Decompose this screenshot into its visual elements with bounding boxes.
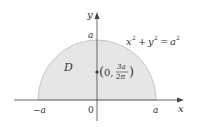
x-axis-arrow-icon xyxy=(177,98,184,103)
centroid-denominator: 2π xyxy=(115,73,125,81)
centroid-numerator: 3a xyxy=(117,63,126,71)
eq-plus: + xyxy=(138,36,146,47)
y-axis-arrow-icon xyxy=(95,12,100,19)
eq-equals: = xyxy=(160,36,168,47)
eq-a-exp: 2 xyxy=(176,34,180,41)
y-tick-a: a xyxy=(88,30,93,40)
eq-y-exp: 2 xyxy=(154,34,158,41)
diagram-canvas: y x a −a 0 a D x 2 + y 2 = a 2 ( 0, 3a 2… xyxy=(0,0,198,127)
x-tick-a: a xyxy=(153,105,158,115)
region-label: D xyxy=(63,61,73,74)
origin-label: 0 xyxy=(88,105,94,115)
x-tick-neg-a: −a xyxy=(33,105,46,115)
centroid-close-paren: ) xyxy=(129,64,134,79)
eq-x-exp: 2 xyxy=(132,34,136,41)
circle-equation: x 2 + y 2 = a 2 xyxy=(126,34,180,47)
y-axis-label: y xyxy=(86,9,93,20)
x-axis-label: x xyxy=(178,103,184,114)
centroid-x: 0, xyxy=(104,67,114,78)
eq-y: y xyxy=(147,36,154,47)
